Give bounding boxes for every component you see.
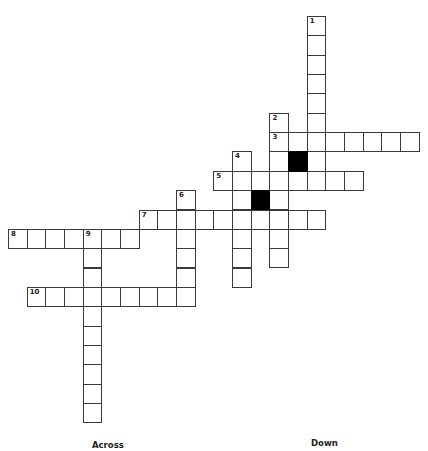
down-heading: Down (311, 438, 338, 448)
grid-cell[interactable] (269, 229, 289, 249)
grid-cell[interactable] (232, 229, 252, 249)
grid-cell[interactable] (381, 132, 401, 152)
grid-cell[interactable] (101, 287, 121, 307)
grid-cell[interactable] (325, 171, 345, 191)
clue-number: 1 (310, 18, 315, 25)
grid-cell[interactable] (307, 93, 327, 113)
grid-cell[interactable] (325, 132, 345, 152)
grid-cell[interactable] (232, 210, 252, 230)
grid-cell[interactable] (344, 171, 364, 191)
grid-cell[interactable] (83, 287, 103, 307)
grid-cell[interactable] (251, 210, 271, 230)
grid-cell[interactable] (307, 55, 327, 75)
grid-cell[interactable]: 4 (232, 151, 252, 171)
grid-cell[interactable] (251, 171, 271, 191)
grid-cell[interactable] (64, 287, 84, 307)
grid-cell[interactable] (213, 210, 233, 230)
black-cell (288, 151, 308, 171)
black-cell (251, 190, 271, 210)
grid-cell[interactable] (269, 210, 289, 230)
grid-cell[interactable] (269, 190, 289, 210)
grid-cell[interactable] (27, 229, 47, 249)
grid-cell[interactable] (307, 210, 327, 230)
grid-cell[interactable] (176, 268, 196, 288)
grid-cell[interactable]: 9 (83, 229, 103, 249)
crossword-grid: 12345678910 (0, 0, 428, 430)
grid-cell[interactable] (139, 287, 159, 307)
grid-cell[interactable] (269, 151, 289, 171)
grid-cell[interactable] (307, 113, 327, 133)
grid-cell[interactable] (269, 248, 289, 268)
grid-cell[interactable] (157, 210, 177, 230)
grid-cell[interactable] (344, 132, 364, 152)
grid-cell[interactable] (195, 210, 215, 230)
grid-cell[interactable]: 1 (307, 16, 327, 36)
grid-cell[interactable] (288, 132, 308, 152)
clue-number: 7 (142, 212, 147, 219)
grid-cell[interactable] (120, 287, 140, 307)
grid-cell[interactable] (363, 132, 383, 152)
clue-number: 10 (30, 289, 40, 296)
grid-cell[interactable] (176, 210, 196, 230)
grid-cell[interactable]: 10 (27, 287, 47, 307)
grid-cell[interactable] (307, 151, 327, 171)
grid-cell[interactable] (288, 210, 308, 230)
grid-cell[interactable] (307, 35, 327, 55)
across-heading: Across (92, 440, 124, 450)
grid-cell[interactable] (83, 364, 103, 384)
clue-number: 6 (179, 192, 184, 199)
grid-cell[interactable] (83, 345, 103, 365)
grid-cell[interactable] (83, 326, 103, 346)
grid-cell[interactable]: 3 (269, 132, 289, 152)
grid-cell[interactable] (232, 171, 252, 191)
grid-cell[interactable] (232, 248, 252, 268)
clue-number: 4 (235, 153, 240, 160)
grid-cell[interactable] (101, 229, 121, 249)
grid-cell[interactable] (232, 190, 252, 210)
grid-cell[interactable] (307, 171, 327, 191)
clue-number: 8 (11, 231, 16, 238)
grid-cell[interactable] (176, 229, 196, 249)
grid-cell[interactable] (83, 306, 103, 326)
grid-cell[interactable]: 7 (139, 210, 159, 230)
grid-cell[interactable] (400, 132, 420, 152)
grid-cell[interactable] (307, 74, 327, 94)
grid-cell[interactable]: 2 (269, 113, 289, 133)
grid-cell[interactable] (45, 229, 65, 249)
grid-cell[interactable] (83, 384, 103, 404)
grid-cell[interactable] (120, 229, 140, 249)
grid-cell[interactable] (83, 403, 103, 423)
clue-number: 5 (216, 173, 221, 180)
grid-cell[interactable] (157, 287, 177, 307)
grid-cell[interactable] (45, 287, 65, 307)
grid-cell[interactable] (176, 287, 196, 307)
clue-number: 2 (272, 115, 277, 122)
grid-cell[interactable] (232, 268, 252, 288)
grid-cell[interactable] (288, 171, 308, 191)
clue-number: 3 (272, 134, 277, 141)
grid-cell[interactable]: 5 (213, 171, 233, 191)
grid-cell[interactable] (307, 132, 327, 152)
grid-cell[interactable] (83, 248, 103, 268)
grid-cell[interactable] (83, 268, 103, 288)
grid-cell[interactable] (64, 229, 84, 249)
grid-cell[interactable] (176, 248, 196, 268)
grid-cell[interactable]: 6 (176, 190, 196, 210)
grid-cell[interactable]: 8 (8, 229, 28, 249)
clue-number: 9 (86, 231, 91, 238)
grid-cell[interactable] (269, 171, 289, 191)
